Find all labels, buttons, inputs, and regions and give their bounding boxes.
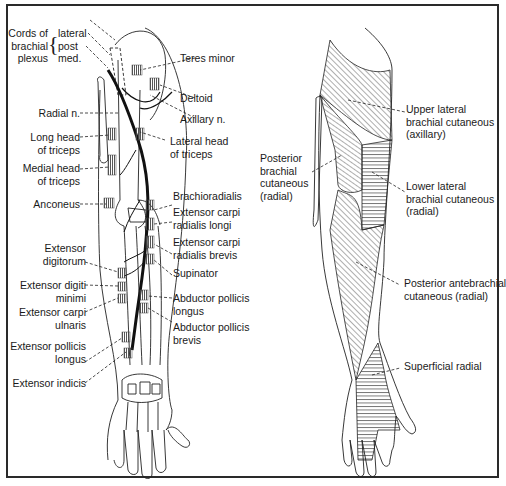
brachial-plexus-cords: lateral post med.: [58, 27, 87, 65]
label-lateral-head-triceps: Lateral headof triceps: [170, 135, 228, 160]
label-supinator: Supinator: [173, 267, 218, 280]
right-arm-regions: [320, 40, 400, 460]
label-posterior-antebrachial-cutaneous: Posterior antebrachialcutaneous (radial): [404, 277, 506, 302]
label-posterior-brachial-cutaneous: Posteriorbrachialcutaneous(radial): [260, 152, 308, 202]
label-abductor-pollicis-longus: Abductor pollicislongus: [173, 292, 249, 317]
label-teres-minor: Teres minor: [180, 52, 235, 65]
label-line: brachial: [4, 40, 48, 53]
label-ecr-longus: Extensor carpiradialis longi: [173, 206, 240, 231]
label-extensor-digitorum: Extensordigitorum: [0, 242, 86, 267]
label-anconeus: Anconeus: [0, 198, 80, 211]
label-line: plexus: [4, 52, 48, 65]
cord-medial: med.: [58, 52, 87, 65]
label-long-head-triceps: Long headof triceps: [0, 131, 80, 156]
label-extensor-digiti-minimi: Extensor digitiminimi: [0, 279, 86, 304]
label-axillary-n: Axillary n.: [180, 113, 226, 126]
cord-posterior: post: [58, 40, 87, 53]
label-deltoid: Deltoid: [180, 92, 213, 105]
label-line: Cords of: [4, 27, 48, 40]
brace-glyph: {: [48, 25, 59, 63]
label-superficial-radial: Superficial radial: [404, 360, 482, 373]
label-brachioradialis: Brachioradialis: [173, 190, 242, 203]
label-medial-head-triceps: Medial headof triceps: [0, 162, 80, 187]
label-extensor-pollicis-longus: Extensor pollicislongus: [0, 340, 86, 365]
label-extensor-carpi-ulnaris: Extensor carpiulnaris: [0, 306, 86, 331]
label-extensor-indicis: Extensor indicis: [0, 377, 86, 390]
label-ecr-brevis: Extensor carpiradialis brevis: [173, 236, 240, 261]
label-radial-n: Radial n.: [0, 107, 80, 120]
brachial-plexus-group-label: Cords of brachial plexus: [4, 27, 48, 65]
label-lower-lateral-brachial-cutaneous: Lower lateralbrachial cutaneous(radial): [406, 180, 494, 218]
label-upper-lateral-brachial-cutaneous: Upper lateralbrachial cutaneous(axillary…: [406, 103, 494, 141]
cord-lateral: lateral: [58, 27, 87, 40]
label-abductor-pollicis-brevis: Abductor pollicisbrevis: [173, 321, 249, 346]
